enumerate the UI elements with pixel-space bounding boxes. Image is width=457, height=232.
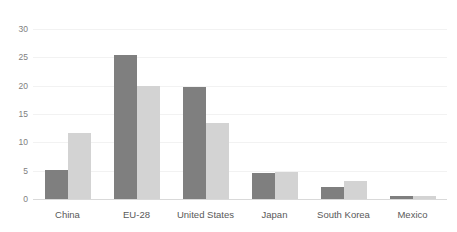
- bar[interactable]: [275, 172, 298, 199]
- x-tick-label: United States: [171, 203, 240, 227]
- y-tick-label: 20: [0, 81, 28, 90]
- y-tick-label: 15: [0, 110, 28, 119]
- bar-group: [309, 29, 378, 199]
- bar-group: [171, 29, 240, 199]
- bar[interactable]: [390, 196, 413, 199]
- y-tick-label: 10: [0, 138, 28, 147]
- bar[interactable]: [45, 170, 68, 199]
- x-tick-label: China: [33, 203, 102, 227]
- plot-area: [33, 29, 447, 199]
- x-tick-label: South Korea: [309, 203, 378, 227]
- bar-chart: 30 25 20 15 10 5 0 ChinaEU-28United Stat…: [0, 0, 457, 232]
- bar-group: [102, 29, 171, 199]
- bar[interactable]: [114, 55, 137, 199]
- bar[interactable]: [68, 133, 91, 199]
- bar-group: [33, 29, 102, 199]
- y-axis: 30 25 20 15 10 5 0: [0, 29, 28, 199]
- bar[interactable]: [183, 87, 206, 199]
- bar[interactable]: [413, 196, 436, 199]
- x-tick-label: Japan: [240, 203, 309, 227]
- y-tick-label: 0: [0, 195, 28, 204]
- bar-group: [378, 29, 447, 199]
- x-tick-label: Mexico: [378, 203, 447, 227]
- y-tick-label: 5: [0, 166, 28, 175]
- bar[interactable]: [321, 187, 344, 199]
- bar-groups: [33, 29, 447, 199]
- bar[interactable]: [206, 123, 229, 200]
- y-tick-label: 25: [0, 53, 28, 62]
- x-axis: ChinaEU-28United StatesJapanSouth KoreaM…: [33, 203, 447, 227]
- bar[interactable]: [137, 86, 160, 199]
- y-tick-label: 30: [0, 25, 28, 34]
- bar[interactable]: [344, 181, 367, 199]
- bar[interactable]: [252, 173, 275, 199]
- axis-baseline: [33, 199, 447, 200]
- bar-group: [240, 29, 309, 199]
- x-tick-label: EU-28: [102, 203, 171, 227]
